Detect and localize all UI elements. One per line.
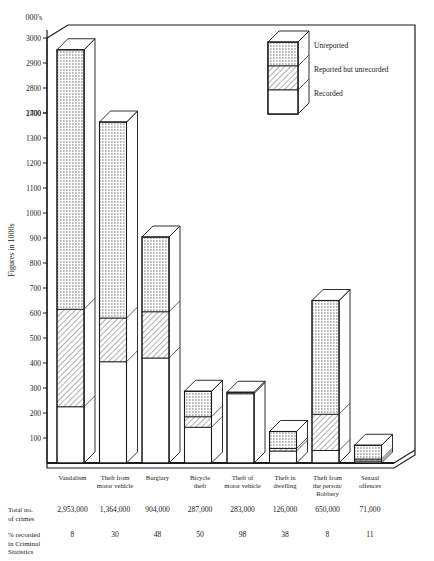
legend-label-dotted: Unreported [314,41,348,50]
bar-4 [185,380,223,463]
category-label: dwelling [273,482,297,489]
chart-canvas: 000's Figures in 1000s 10020030040050060… [0,0,434,561]
category-label: Bicycle [190,474,210,481]
y-tick-label: 1100 [26,184,41,193]
chart-legend: UnreportedReported but unrecordedRecorde… [268,31,389,114]
table-cell-percent: 48 [154,530,162,539]
y-axis-title: Figures in 1000s [7,223,16,276]
category-label: Sexual [361,474,379,481]
table-cell-total: 283,000 [230,505,255,514]
table-cell-total: 126,000 [273,505,298,514]
y-tick-label: 700 [30,284,42,293]
table-cell-percent: 11 [366,530,374,539]
bar-7 [312,290,350,464]
bar-6 [270,421,308,464]
y-tick-label: 300 [30,384,42,393]
y-tick-label: 2900 [26,59,41,68]
legend-label-blank: Recorded [314,89,343,98]
y-tick-label: 600 [30,309,42,318]
crime-statistics-chart: 000's Figures in 1000s 10020030040050060… [0,0,434,561]
table-row-label-percent: Statistics [8,548,34,556]
table-cell-percent: 98 [239,530,247,539]
table-cell-total: 1,364,000 [100,505,131,514]
category-label: motor vehicle [224,482,261,489]
y-tick-label: 2700 [26,109,41,118]
bar-3 [142,226,180,463]
table-cell-total: 287,000 [188,505,213,514]
table-row-label-percent: in Criminal [8,540,40,548]
table-cell-percent: 38 [281,530,289,539]
y-tick-label: 2800 [26,84,41,93]
table-row-label-total: Total no. [8,506,33,514]
category-label: theft [194,482,206,489]
bar-8 [355,434,393,463]
y-tick-label: 1200 [26,159,41,168]
unit-label: 000's [25,13,42,22]
category-labels: VandalismTheft frommotor vehicleBurglary… [59,474,382,497]
category-label: Theft from [313,474,343,481]
table-cell-total: 650,000 [315,505,340,514]
table-row-label-percent: % recorded [8,531,41,539]
table-cell-total: 904,000 [145,505,170,514]
table-cell-percent: 8 [71,530,75,539]
table-cell-percent: 50 [196,530,204,539]
category-label: Vandalism [59,474,88,481]
y-tick-label: 3000 [26,34,41,43]
category-label: motor vehicle [97,482,134,489]
category-label: the person/ [313,482,342,489]
y-tick-label: 800 [30,259,42,268]
y-tick-label: 500 [30,334,42,343]
y-tick-label: 1000 [26,209,41,218]
category-label: Robbery [316,490,339,497]
table-cell-total: 71,000 [360,505,381,514]
y-axis: 1002003004005006007008009001000110012001… [26,30,47,463]
bar-group [57,39,393,463]
legend-label-hatched: Reported but unrecorded [314,65,389,74]
y-tick-label: 1300 [26,134,41,143]
table-cell-total: 2,953,000 [57,505,88,514]
category-label: Theft from [101,474,131,481]
category-label: Theft of [232,474,254,481]
bar-5 [227,381,265,463]
category-label: offences [359,482,382,489]
data-table: Total no.of crimes% recordedin CriminalS… [8,505,381,556]
y-tick-label: 400 [30,359,42,368]
table-cell-percent: 8 [326,530,330,539]
y-tick-label: 100 [30,434,42,443]
y-tick-label: 900 [30,234,42,243]
y-tick-label: 200 [30,409,42,418]
table-cell-percent: 30 [111,530,119,539]
bar-2 [100,111,138,463]
bar-1 [57,39,95,463]
table-row-label-total: of crimes [8,515,35,523]
category-label: Burglary [146,474,170,481]
category-label: Theft in [274,474,296,481]
